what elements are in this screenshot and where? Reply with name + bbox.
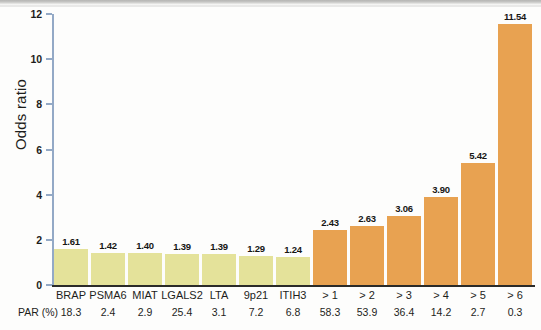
- bar-value-label: 3.90: [416, 184, 466, 195]
- bar-group: 2.43: [313, 14, 347, 285]
- bar-value-label: 2.63: [342, 213, 392, 224]
- bar: [239, 256, 273, 285]
- y-axis-tick: [46, 103, 52, 105]
- bar-value-label: 1.24: [268, 244, 318, 255]
- y-axis-tick-label: 6: [0, 144, 42, 156]
- par-value: 0.3: [488, 306, 541, 318]
- y-axis-tick-label: 4: [0, 189, 42, 201]
- bar: [54, 249, 88, 285]
- bar: [165, 254, 199, 285]
- scan-artifact-strip-secondary: [0, 5, 541, 7]
- bar: [387, 216, 421, 285]
- bar-value-label: 3.06: [379, 203, 429, 214]
- bar-value-label: 5.42: [453, 150, 503, 161]
- y-axis-tick-label: 10: [0, 53, 42, 65]
- par-value-row: 18.32.42.925.43.17.26.858.353.936.414.22…: [54, 306, 535, 322]
- y-axis-tick-label: 8: [0, 98, 42, 110]
- bar: [498, 24, 532, 285]
- bar: [128, 253, 162, 285]
- y-axis-tick: [46, 149, 52, 151]
- bar: [461, 163, 495, 285]
- bar: [202, 254, 236, 285]
- odds-ratio-bar-chart: Odds ratio 024681012 1.611.421.401.391.3…: [0, 0, 541, 330]
- bar: [276, 257, 310, 285]
- y-axis-tick: [46, 58, 52, 60]
- y-axis-tick-label: 12: [0, 8, 42, 20]
- bar: [313, 230, 347, 285]
- y-axis-tick: [46, 13, 52, 15]
- y-axis-title: Odds ratio: [12, 55, 29, 175]
- category-label-row: BRAPPSMA6MIATLGALS2LTA9p21ITIH3> 1> 2> 3…: [54, 289, 535, 305]
- category-label: > 6: [488, 289, 541, 301]
- bar-group: 3.06: [387, 14, 421, 285]
- bar-value-label: 11.54: [490, 11, 540, 22]
- bar-group: 2.63: [350, 14, 384, 285]
- bar: [91, 253, 125, 285]
- y-axis-tick-label: 0: [0, 279, 42, 291]
- bar: [424, 197, 458, 285]
- bar-group: 11.54: [498, 14, 532, 285]
- x-axis-baseline: [52, 285, 535, 287]
- bar: [350, 226, 384, 285]
- bar-group: 1.24: [276, 14, 310, 285]
- plot-area: 1.611.421.401.391.391.291.242.432.633.06…: [54, 14, 535, 285]
- y-axis-tick-label: 2: [0, 234, 42, 246]
- y-axis-tick: [46, 194, 52, 196]
- bar-group: 5.42: [461, 14, 495, 285]
